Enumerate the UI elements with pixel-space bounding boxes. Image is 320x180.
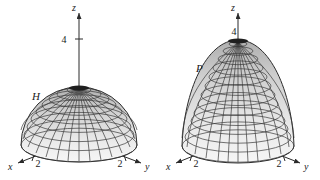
z-axis-hemisphere [75, 13, 83, 92]
hemisphere-surface-label: H [31, 90, 41, 102]
hemisphere-z-tick-label: 4 [62, 34, 67, 45]
paraboloid-apex-cap [228, 39, 248, 44]
paraboloid-x-tick-label: 2 [194, 158, 199, 169]
paraboloid-panel: P z 4 x 2 2 y [165, 2, 309, 172]
figure-canvas: H z 4 x 2 2 y [0, 0, 320, 180]
hemisphere-x-tick-label: 2 [36, 158, 41, 169]
hemisphere-z-axis-label: z [71, 2, 76, 13]
paraboloid-surface-label: P [195, 62, 203, 74]
hemisphere-panel: H z 4 x 2 2 y [7, 2, 150, 172]
paraboloid-surface [182, 39, 294, 163]
hemisphere-y-tick-label: 2 [118, 158, 123, 169]
paraboloid-y-tick-label: 2 [277, 158, 282, 169]
hemisphere-x-axis-label: x [7, 161, 13, 172]
paraboloid-x-axis-label: x [165, 161, 171, 172]
hemisphere-apex-cap [69, 85, 89, 90]
paraboloid-z-axis-label: z [230, 2, 235, 13]
hemisphere-y-axis-label: y [144, 161, 150, 172]
paraboloid-y-axis-label: y [303, 161, 309, 172]
surface-figure-svg: H z 4 x 2 2 y [0, 0, 320, 180]
paraboloid-z-tick-label: 4 [232, 26, 237, 37]
